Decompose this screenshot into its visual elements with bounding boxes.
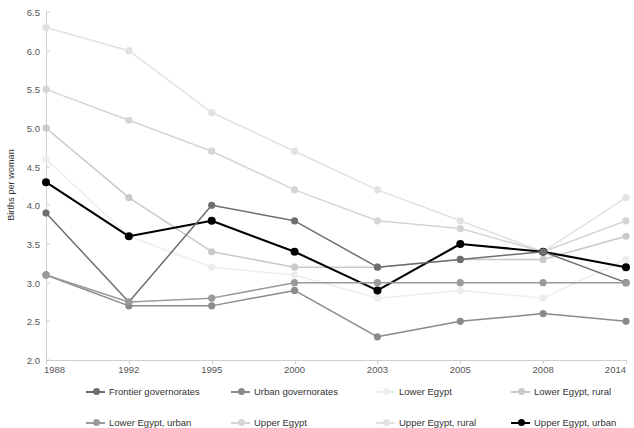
data-point[interactable] bbox=[622, 256, 629, 263]
series-line bbox=[46, 205, 626, 302]
data-point[interactable] bbox=[208, 217, 216, 225]
y-tick-label: 5.0 bbox=[27, 123, 40, 134]
y-tick-label: 3.0 bbox=[27, 277, 40, 288]
data-point[interactable] bbox=[291, 217, 298, 224]
y-axis-label: Births per woman bbox=[6, 120, 16, 250]
y-tick-label: 5.5 bbox=[27, 84, 40, 95]
legend-label: Lower Egypt bbox=[399, 386, 452, 397]
data-point[interactable] bbox=[42, 86, 49, 93]
series-line bbox=[46, 182, 626, 290]
data-point[interactable] bbox=[457, 287, 464, 294]
y-tick-label: 2.0 bbox=[27, 355, 40, 366]
x-tick-label: 1988 bbox=[44, 364, 65, 375]
x-tick-mark bbox=[460, 360, 461, 364]
data-point[interactable] bbox=[42, 124, 49, 131]
legend-label: Urban governorates bbox=[254, 386, 338, 397]
data-point[interactable] bbox=[457, 256, 464, 263]
data-point[interactable] bbox=[374, 217, 381, 224]
data-point[interactable] bbox=[125, 298, 132, 305]
data-point[interactable] bbox=[291, 271, 298, 278]
x-tick-mark bbox=[129, 360, 130, 364]
x-tick-label: 2008 bbox=[533, 364, 554, 375]
data-point[interactable] bbox=[291, 287, 298, 294]
data-point[interactable] bbox=[208, 302, 215, 309]
legend-marker bbox=[518, 388, 525, 395]
x-tick-label: 1995 bbox=[201, 364, 222, 375]
plot-area: 6.56.05.55.04.54.03.53.02.52.0 198819921… bbox=[46, 12, 626, 360]
data-point[interactable] bbox=[208, 248, 215, 255]
data-point[interactable] bbox=[291, 186, 298, 193]
x-tick-label: 2000 bbox=[284, 364, 305, 375]
legend-item-lower-egypt[interactable]: Lower Egypt bbox=[376, 386, 452, 397]
data-point[interactable] bbox=[540, 279, 547, 286]
y-tick-label: 4.0 bbox=[27, 200, 40, 211]
legend-item-frontier-governorates[interactable]: Frontier governorates bbox=[86, 386, 200, 397]
data-point[interactable] bbox=[457, 279, 464, 286]
legend-swatch bbox=[376, 387, 395, 397]
chart-title bbox=[0, 0, 634, 3]
y-tick-label: 2.5 bbox=[27, 316, 40, 327]
legend-row: Lower Egypt, urbanUpper EgyptUpper Egypt… bbox=[46, 402, 626, 415]
legend-swatch bbox=[231, 387, 250, 397]
data-point[interactable] bbox=[42, 271, 49, 278]
x-tick-label: 2005 bbox=[450, 364, 471, 375]
data-point[interactable] bbox=[622, 194, 629, 201]
data-point[interactable] bbox=[208, 148, 215, 155]
legend-label: Upper Egypt, rural bbox=[399, 417, 476, 428]
legend-item-upper-egypt-urban[interactable]: Upper Egypt, urban bbox=[511, 417, 616, 428]
series-layer bbox=[46, 12, 626, 360]
data-point[interactable] bbox=[457, 217, 464, 224]
series-frontier-governorates bbox=[42, 202, 629, 306]
data-point[interactable] bbox=[456, 240, 464, 248]
data-point[interactable] bbox=[291, 264, 298, 271]
data-point[interactable] bbox=[208, 264, 215, 271]
legend-item-lower-egypt-urban[interactable]: Lower Egypt, urban bbox=[86, 417, 191, 428]
data-point[interactable] bbox=[208, 295, 215, 302]
data-point[interactable] bbox=[622, 217, 629, 224]
data-point[interactable] bbox=[125, 47, 132, 54]
data-point[interactable] bbox=[291, 248, 299, 256]
data-point[interactable] bbox=[291, 279, 298, 286]
data-point[interactable] bbox=[125, 117, 132, 124]
legend-item-upper-egypt[interactable]: Upper Egypt bbox=[231, 417, 307, 428]
legend-marker bbox=[93, 388, 100, 395]
legend-marker bbox=[518, 419, 525, 426]
legend-item-urban-governorates[interactable]: Urban governorates bbox=[231, 386, 338, 397]
data-point[interactable] bbox=[540, 310, 547, 317]
data-point[interactable] bbox=[125, 194, 132, 201]
data-point[interactable] bbox=[373, 286, 381, 294]
data-point[interactable] bbox=[622, 263, 630, 271]
legend-marker bbox=[238, 388, 245, 395]
data-point[interactable] bbox=[125, 232, 133, 240]
data-point[interactable] bbox=[291, 148, 298, 155]
data-point[interactable] bbox=[42, 24, 49, 31]
data-point[interactable] bbox=[374, 264, 381, 271]
x-tick-mark bbox=[377, 360, 378, 364]
data-point[interactable] bbox=[540, 248, 547, 255]
series-line bbox=[46, 159, 626, 298]
data-point[interactable] bbox=[374, 279, 381, 286]
data-point[interactable] bbox=[540, 256, 547, 263]
data-point[interactable] bbox=[622, 233, 629, 240]
data-point[interactable] bbox=[457, 225, 464, 232]
legend-swatch bbox=[231, 418, 250, 428]
data-point[interactable] bbox=[208, 109, 215, 116]
y-tick-label: 6.0 bbox=[27, 45, 40, 56]
data-point[interactable] bbox=[208, 202, 215, 209]
data-point[interactable] bbox=[42, 155, 49, 162]
data-point[interactable] bbox=[540, 295, 547, 302]
data-point[interactable] bbox=[42, 178, 50, 186]
legend-marker bbox=[93, 419, 100, 426]
legend-swatch bbox=[86, 387, 105, 397]
legend-item-upper-egypt-rural[interactable]: Upper Egypt, rural bbox=[376, 417, 476, 428]
data-point[interactable] bbox=[374, 186, 381, 193]
data-point[interactable] bbox=[622, 279, 629, 286]
series-line bbox=[46, 27, 626, 251]
data-point[interactable] bbox=[622, 318, 629, 325]
data-point[interactable] bbox=[42, 209, 49, 216]
x-tick-mark bbox=[212, 360, 213, 364]
legend-item-lower-egypt-rural[interactable]: Lower Egypt, rural bbox=[511, 386, 611, 397]
data-point[interactable] bbox=[457, 318, 464, 325]
data-point[interactable] bbox=[374, 333, 381, 340]
data-point[interactable] bbox=[374, 295, 381, 302]
